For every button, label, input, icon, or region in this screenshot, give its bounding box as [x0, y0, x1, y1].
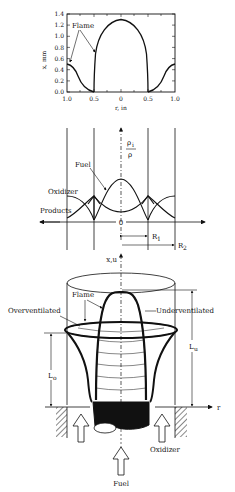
fuel-pointer	[90, 168, 106, 190]
flame-pointer-right	[80, 30, 95, 52]
rho-numerator: ρ	[127, 139, 131, 147]
overventilated-label: Overventilated	[8, 307, 61, 315]
left-wall-hatching	[56, 407, 67, 437]
overventilated-flame-left	[67, 332, 92, 402]
y-tick-label: 1.2	[54, 21, 64, 28]
fuel-tube-opening	[94, 423, 116, 433]
x-tick-label: 0.5	[143, 95, 153, 102]
flame-pointer-dome	[87, 300, 102, 308]
x-tick-labels: 1.0 0.5 0 0.5 1.0	[62, 95, 180, 102]
y-tick-label: 0.6	[54, 55, 64, 62]
r2-subscript: 2	[183, 244, 187, 251]
y-tick-label: 0.0	[54, 88, 64, 95]
y-tick-label: 0.4	[54, 66, 64, 73]
y-tick-label: 1.4	[54, 10, 64, 17]
flame-height-plot: 1.4 1.2 1.0 0.8 0.6 0.4 0.2 0.0 x, mm 1.…	[40, 10, 180, 111]
oxidizer-label: Oxidizer	[48, 188, 78, 196]
oxidizer-curve	[67, 196, 175, 220]
flame-annotation: Flame	[72, 22, 94, 30]
oxidizer-inlet-label: Oxidizer	[150, 446, 180, 454]
overventilated-leader	[60, 316, 80, 326]
underventilated-label: Underventilated	[156, 307, 214, 315]
flame-curve-right	[148, 64, 175, 92]
x-tick-label: 1.0	[170, 95, 180, 102]
y-tick-label: 0.2	[54, 77, 64, 84]
r1-subscript: 1	[157, 235, 161, 242]
y-axis-label: x, mm	[40, 50, 47, 69]
burner-flame-label: Flame	[72, 291, 94, 299]
origin-label: 0	[119, 219, 123, 227]
fuel-inlet-arrow	[113, 447, 129, 475]
oxidizer-inlet-arrow-right	[154, 414, 170, 442]
lo-subscript: o	[53, 374, 57, 381]
right-wall-hatching	[175, 407, 187, 437]
density-ratio-label: ρ i ρ	[126, 139, 136, 159]
x-tick-label: 0	[119, 95, 123, 102]
rho-subscript: i	[132, 141, 134, 148]
y-tick-label: 1.0	[54, 32, 64, 39]
r-axis-label: r	[217, 404, 221, 412]
flame-curve-inner	[94, 20, 148, 93]
x-axis-label: r, in	[115, 104, 127, 111]
fuel-label: Fuel	[75, 161, 92, 169]
lu-subscript: u	[194, 345, 198, 352]
flame-pointer-left	[70, 30, 79, 62]
y-tick-label: 0.8	[54, 44, 64, 51]
oxidizer-inlet-arrow-left	[73, 414, 89, 442]
x-tick-label: 0.5	[89, 95, 99, 102]
rho-denominator: ρ	[128, 151, 132, 159]
figure-canvas: 1.4 1.2 1.0 0.8 0.6 0.4 0.2 0.0 x, mm 1.…	[0, 0, 235, 492]
overventilated-flame-right	[150, 332, 175, 402]
flame-curve-left	[67, 64, 94, 92]
species-profile: ρ i ρ 0 Fuel Oxidizer Products R 1 R 2	[40, 128, 205, 251]
y-tick-labels: 1.4 1.2 1.0 0.8 0.6 0.4 0.2 0.0	[54, 10, 64, 95]
burner-schematic: x,u r	[8, 254, 221, 488]
products-label: Products	[40, 207, 72, 215]
x-u-axis-label: x,u	[106, 256, 117, 264]
x-tick-label: 1.0	[62, 95, 72, 102]
fuel-inlet-label: Fuel	[113, 480, 130, 488]
